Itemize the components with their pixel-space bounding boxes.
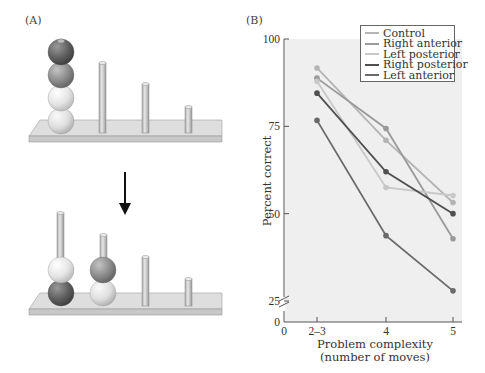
ball-medium-dark — [90, 257, 116, 283]
ball-medium-dark — [48, 62, 74, 88]
panel-b-line-chart: (B) 0255075100 02–345 Control Right ante… — [240, 0, 485, 373]
legend-swatch — [365, 64, 379, 66]
y-tick-label: 25 — [269, 295, 281, 307]
data-point — [450, 193, 456, 199]
data-point — [314, 118, 320, 124]
panel-a-label: (A) — [25, 14, 42, 27]
data-point — [314, 90, 320, 96]
chart-legend: Control Right anterior Left posterior Ri… — [360, 25, 455, 82]
panel-a-tower-illustration: (A) — [0, 0, 240, 373]
legend-swatch — [365, 32, 379, 34]
x-tick-label: 2–3 — [308, 325, 326, 337]
data-point — [450, 211, 456, 217]
x-tick-label: 5 — [450, 325, 456, 337]
top-board-state — [29, 39, 222, 142]
legend-item-left-anterior: Left anterior — [365, 70, 454, 81]
data-point — [314, 65, 320, 71]
y-axis-title: Percent correct — [260, 136, 274, 227]
x-tick-label: 4 — [383, 325, 389, 337]
data-point — [450, 200, 456, 206]
legend-swatch — [365, 53, 379, 55]
data-point — [383, 138, 389, 144]
legend-swatch — [365, 74, 379, 76]
peg-tall — [99, 63, 106, 133]
ball-light — [48, 257, 74, 283]
data-point — [450, 288, 456, 294]
y-tick-label: 75 — [269, 120, 281, 132]
peg-short — [185, 279, 192, 306]
data-point — [314, 78, 320, 84]
tower-puzzle-figure — [0, 0, 240, 373]
y-tick-label: 100 — [263, 33, 281, 45]
ball-light — [48, 85, 74, 111]
x-axis-title: Problem complexity (number of moves) — [300, 338, 450, 364]
peg-medium — [142, 257, 149, 306]
ball-lighter — [90, 280, 116, 306]
bottom-board-state — [29, 212, 222, 316]
data-point — [383, 126, 389, 132]
down-arrow-icon — [119, 172, 131, 215]
data-point — [383, 169, 389, 175]
data-point — [450, 236, 456, 242]
peg-medium — [142, 84, 149, 133]
ball-lighter — [48, 108, 74, 134]
y-tick-label: 0 — [274, 316, 280, 328]
x-axis-title-line2: (number of moves) — [300, 351, 450, 364]
x-tick-label: 0 — [281, 325, 287, 337]
data-point — [383, 185, 389, 191]
legend-label: Left anterior — [383, 70, 454, 81]
ball-dark — [48, 280, 74, 306]
peg-short — [185, 107, 192, 133]
data-point — [383, 233, 389, 239]
legend-swatch — [365, 43, 379, 45]
